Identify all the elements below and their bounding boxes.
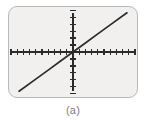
figure-caption: (a) (0, 104, 146, 116)
calculator-screen (8, 6, 138, 98)
graph-plot (9, 7, 137, 97)
figure-container: (a) (0, 0, 146, 126)
